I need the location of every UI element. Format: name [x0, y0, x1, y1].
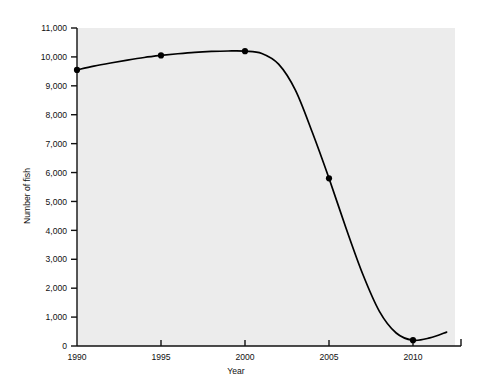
y-tick-label: 0 — [62, 341, 67, 351]
y-tick-label: 11,000 — [41, 23, 67, 33]
x-tick-label: 2000 — [235, 352, 254, 362]
data-point-marker — [74, 67, 80, 73]
y-tick-label: 4,000 — [45, 226, 67, 236]
y-axis-title: Number of fish — [22, 168, 32, 224]
y-tick-label: 7,000 — [45, 139, 67, 149]
y-tick-label: 2,000 — [45, 283, 67, 293]
fish-population-line-chart: 01,0002,0003,0004,0005,0006,0007,0008,00… — [0, 0, 481, 391]
y-tick-label: 3,000 — [45, 254, 67, 264]
y-tick-label: 6,000 — [45, 168, 67, 178]
y-tick-label: 5,000 — [45, 197, 67, 207]
data-point-marker — [326, 175, 332, 181]
data-point-marker — [242, 48, 248, 54]
x-tick-label: 1995 — [151, 352, 170, 362]
x-tick-label: 1990 — [67, 352, 86, 362]
data-point-marker — [158, 52, 164, 58]
x-axis-title: Year — [227, 366, 245, 376]
y-tick-label: 9,000 — [45, 81, 67, 91]
data-point-marker — [410, 337, 416, 343]
y-tick-label: 8,000 — [45, 110, 67, 120]
y-tick-label: 1,000 — [45, 312, 67, 322]
chart-svg: 01,0002,0003,0004,0005,0006,0007,0008,00… — [0, 0, 481, 391]
x-tick-label: 2005 — [319, 352, 338, 362]
x-tick-label: 2010 — [403, 352, 422, 362]
plot-area-background — [77, 28, 455, 346]
y-tick-label: 10,000 — [41, 52, 68, 62]
